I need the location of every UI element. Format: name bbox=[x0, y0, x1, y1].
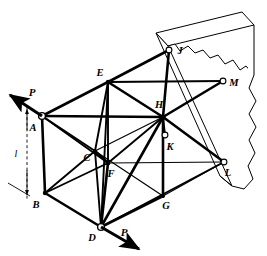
node-label-F: F bbox=[106, 168, 114, 179]
member-H-L bbox=[163, 117, 224, 162]
node-label-K: K bbox=[165, 141, 174, 152]
node-label-B: B bbox=[31, 199, 39, 210]
truss-members bbox=[42, 50, 224, 227]
member-H-J bbox=[163, 50, 169, 117]
wall-right-torn-edge-icon bbox=[232, 25, 256, 189]
node-label-G: G bbox=[162, 200, 170, 211]
joint-marker-H[interactable] bbox=[160, 114, 165, 119]
member-B-D bbox=[45, 193, 101, 227]
member-A-H bbox=[42, 116, 163, 117]
node-label-C: C bbox=[83, 152, 91, 163]
joint-marker-K[interactable] bbox=[162, 132, 168, 138]
joint-marker-M[interactable] bbox=[220, 78, 226, 84]
node-label-M: M bbox=[228, 77, 239, 88]
member-E-J bbox=[108, 50, 169, 82]
member-A-B bbox=[42, 116, 45, 193]
member-C-D bbox=[95, 151, 101, 227]
joint-marker-F[interactable] bbox=[106, 161, 111, 166]
wall-top-face bbox=[156, 12, 254, 46]
member-A-E bbox=[42, 82, 108, 116]
node-label-J: J bbox=[176, 45, 183, 56]
joint-marker-C[interactable] bbox=[93, 149, 97, 153]
joint-marker-G[interactable] bbox=[161, 194, 165, 198]
joint-markers bbox=[39, 47, 227, 230]
force-label-P-lower: P bbox=[121, 226, 128, 238]
node-label-L: L bbox=[224, 167, 231, 178]
joint-marker-E[interactable] bbox=[106, 80, 110, 84]
force-arrow-P-upper bbox=[10, 95, 42, 116]
node-label-D: D bbox=[87, 232, 96, 243]
node-label-A: A bbox=[28, 122, 36, 133]
space-truss-diagram: A B C D E F G H J K L M P P l bbox=[0, 0, 267, 256]
joint-marker-L[interactable] bbox=[221, 159, 227, 165]
joint-marker-B[interactable] bbox=[43, 191, 47, 195]
figure-root: A B C D E F G H J K L M P P l bbox=[0, 0, 267, 256]
dimension-group bbox=[8, 106, 30, 199]
node-label-E: E bbox=[95, 67, 103, 78]
member-C-F bbox=[95, 151, 108, 163]
member-F-L bbox=[108, 162, 224, 163]
dimension-label-l: l bbox=[15, 148, 18, 159]
node-label-H: H bbox=[154, 99, 164, 110]
force-label-P-upper: P bbox=[29, 86, 36, 98]
joint-marker-J[interactable] bbox=[166, 47, 172, 53]
